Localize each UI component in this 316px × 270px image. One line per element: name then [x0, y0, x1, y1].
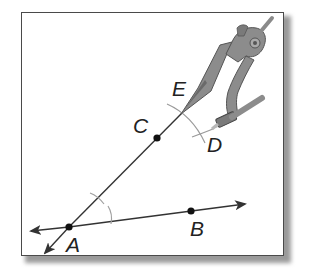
label-c: C — [133, 114, 149, 137]
point-a — [65, 223, 72, 230]
line-ab — [69, 204, 245, 227]
compass-icon — [181, 18, 272, 130]
label-e: E — [172, 77, 187, 100]
construction-diagram: A B C D E — [0, 0, 316, 270]
label-d: D — [207, 133, 222, 156]
label-a: A — [64, 233, 80, 256]
point-c — [153, 134, 160, 141]
ray-ae — [69, 113, 182, 227]
point-b — [187, 207, 194, 214]
label-b: B — [190, 217, 204, 240]
line-ab-left-ray — [31, 227, 69, 231]
